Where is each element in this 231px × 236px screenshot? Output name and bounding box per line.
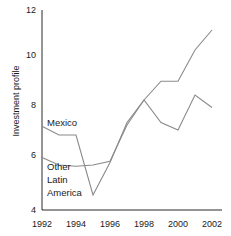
series-label-other-line2: Latin bbox=[47, 174, 68, 185]
x-tick-1998: 1998 bbox=[129, 220, 159, 229]
investment-profile-line-chart: Investment profile 12 10 8 6 4 1992 1994… bbox=[0, 0, 231, 236]
x-tick-2002: 2002 bbox=[197, 220, 227, 229]
y-tick-6: 6 bbox=[16, 151, 36, 160]
series-label-mexico: Mexico bbox=[47, 117, 77, 128]
x-tick-1992: 1992 bbox=[27, 220, 57, 229]
x-tick-2000: 2000 bbox=[163, 220, 193, 229]
y-tick-12: 12 bbox=[16, 6, 36, 15]
y-tick-10: 10 bbox=[16, 51, 36, 60]
series-label-other-line1: Other bbox=[47, 161, 71, 172]
chart-plot-area bbox=[0, 0, 231, 236]
y-tick-8: 8 bbox=[16, 101, 36, 110]
x-tick-1996: 1996 bbox=[95, 220, 125, 229]
y-tick-4: 4 bbox=[16, 206, 36, 215]
x-tick-1994: 1994 bbox=[61, 220, 91, 229]
series-line-other-latin-america bbox=[42, 95, 212, 166]
series-label-other-line3: America bbox=[47, 187, 82, 198]
